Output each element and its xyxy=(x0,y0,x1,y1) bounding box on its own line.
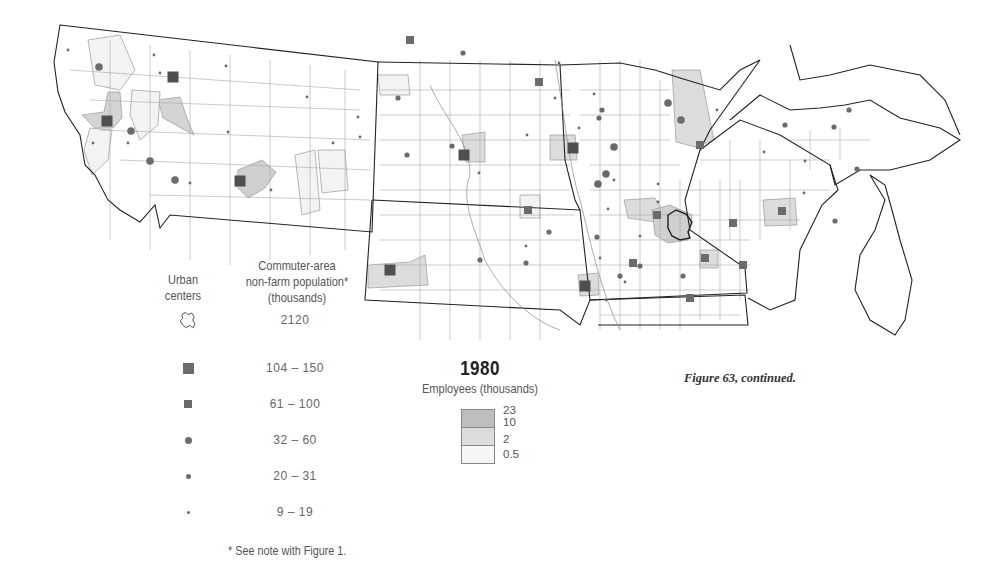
urban-center-dot xyxy=(523,260,528,265)
large-dot-icon xyxy=(178,430,198,450)
urban-center-square xyxy=(385,265,396,276)
urban-center-square xyxy=(568,143,579,154)
urban-center-dot xyxy=(153,54,156,57)
urban-center-dot xyxy=(832,218,837,223)
urban-center-dot xyxy=(804,160,807,163)
urban-center-square xyxy=(535,78,543,86)
urban-center-dot xyxy=(657,183,660,186)
break-label: 23 xyxy=(503,404,519,416)
urban-center-dot xyxy=(127,142,130,145)
figure-caption: Figure 63, continued. xyxy=(684,371,796,386)
urban-outline-icon xyxy=(178,310,198,330)
legend-value: 2120 xyxy=(230,313,360,327)
urban-center-square xyxy=(580,281,591,292)
urban-center-dot xyxy=(599,257,602,260)
urban-center-dot xyxy=(404,152,409,157)
urban-center-dot xyxy=(332,142,335,145)
urban-center-dot xyxy=(159,72,162,75)
urban-center-dot xyxy=(546,229,551,234)
footnote: * See note with Figure 1. xyxy=(228,544,346,558)
small-square-symbols xyxy=(406,36,786,302)
legend-value: 9 – 19 xyxy=(230,505,360,519)
shading-legend: 1980 Employees (thousands) 23 10 2 0.5 xyxy=(410,357,550,396)
legend-row: 104 – 150 xyxy=(150,358,380,378)
urban-center-dot xyxy=(602,170,610,178)
urban-center-square xyxy=(696,141,704,149)
population-header-line: Commuter-area xyxy=(233,258,361,274)
urban-center-dot xyxy=(607,208,610,211)
urban-center-dot xyxy=(803,192,806,195)
urban-center-dot xyxy=(526,134,529,137)
urban-center-dot xyxy=(67,49,70,52)
urban-header-line: Urban xyxy=(162,272,205,288)
legend-row: 20 – 31 xyxy=(150,466,380,486)
urban-center-dot xyxy=(599,107,604,112)
urban-center-dot xyxy=(594,234,599,239)
small-dot-icon xyxy=(178,502,198,522)
shading-ramp xyxy=(461,409,495,464)
medium-dot-icon xyxy=(178,466,198,486)
urban-center-dot xyxy=(578,127,581,130)
shade-bin-low xyxy=(461,446,495,464)
urban-center-dot xyxy=(558,62,561,65)
urban-center-dot xyxy=(680,273,685,278)
urban-center-dot xyxy=(613,179,616,182)
urban-center-square xyxy=(235,176,246,187)
urban-center-dot xyxy=(624,281,627,284)
urban-center-square xyxy=(102,116,113,127)
urban-center-dot xyxy=(270,189,273,192)
urban-center-square xyxy=(168,72,179,83)
urban-center-dot xyxy=(146,157,154,165)
population-header-line: non-farm population* xyxy=(233,274,361,290)
ramp-labels: 23 10 2 0.5 xyxy=(503,404,519,460)
urban-center-square xyxy=(686,294,694,302)
legend-year: 1980 xyxy=(421,357,540,380)
urban-center-dot xyxy=(478,172,481,175)
urban-center-dot xyxy=(831,124,836,129)
urban-center-dot xyxy=(617,273,622,278)
urban-center-dot xyxy=(782,122,787,127)
urban-center-dot xyxy=(610,143,618,151)
urban-center-dot xyxy=(525,245,528,248)
urban-center-dot xyxy=(554,97,557,100)
break-label: 2 xyxy=(503,433,519,445)
legend-value: 104 – 150 xyxy=(230,361,360,375)
break-label: 10 xyxy=(503,416,519,428)
legend-value: 61 – 100 xyxy=(230,397,360,411)
legend-row: 61 – 100 xyxy=(150,394,380,414)
urban-center-dot xyxy=(171,176,179,184)
shade-bin-high xyxy=(461,409,495,428)
urban-center-dot xyxy=(657,201,660,204)
legend-value: 32 – 60 xyxy=(230,433,360,447)
thematic-map xyxy=(0,0,1006,360)
urban-center-square xyxy=(729,219,737,227)
urban-center-dot xyxy=(225,65,228,68)
population-header-line: (thousands) xyxy=(233,290,361,306)
urban-center-square xyxy=(459,150,470,161)
urban-center-dot xyxy=(846,107,851,112)
large-square-icon xyxy=(178,358,198,378)
urban-center-dot xyxy=(605,299,608,302)
urban-center-square xyxy=(778,207,786,215)
urban-center-dot xyxy=(92,142,95,145)
urban-center-dot xyxy=(95,63,103,71)
population-header: Commuter-area non-farm population* (thou… xyxy=(233,258,361,306)
urban-center-dot xyxy=(395,95,400,100)
urban-center-dot xyxy=(449,143,454,148)
urban-center-square xyxy=(629,259,637,267)
legend-row: 9 – 19 xyxy=(150,502,380,522)
urban-center-square xyxy=(701,254,709,262)
urban-center-dot xyxy=(716,109,719,112)
urban-center-dot xyxy=(127,127,135,135)
urban-center-dot xyxy=(596,115,601,120)
urban-center-dot xyxy=(854,166,859,171)
urban-header-line: centers xyxy=(162,288,205,304)
urban-center-square xyxy=(406,36,414,44)
urban-center-square xyxy=(739,261,747,269)
urban-center-dot xyxy=(357,116,360,119)
break-label: 0.5 xyxy=(503,448,519,460)
urban-center-dot xyxy=(639,235,642,238)
urban-center-square xyxy=(653,211,661,219)
urban-center-dot xyxy=(637,263,642,268)
shaded-counties xyxy=(82,35,797,296)
